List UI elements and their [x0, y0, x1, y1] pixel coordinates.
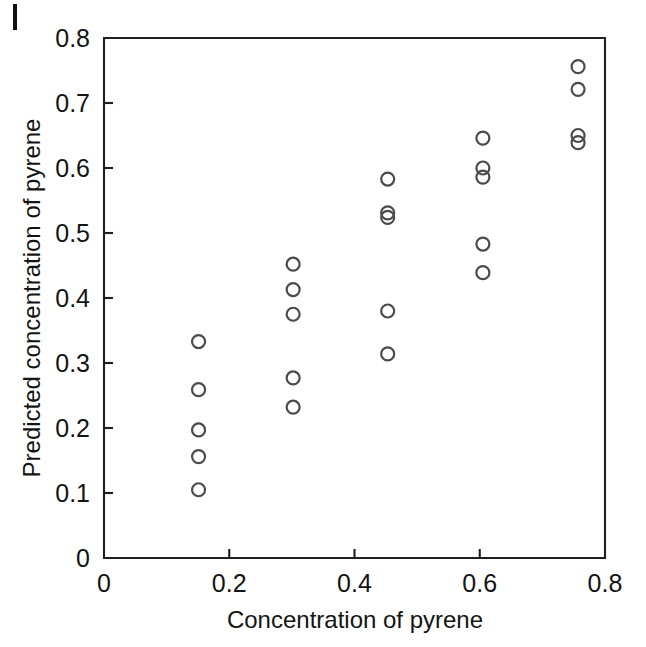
data-point	[381, 305, 394, 318]
data-point	[476, 238, 489, 251]
x-tick-label: 0.2	[212, 569, 247, 597]
y-tick-label: 0.8	[55, 24, 90, 52]
data-point	[381, 173, 394, 186]
y-tick-label: 0.2	[55, 414, 90, 442]
y-tick-label: 0.7	[55, 89, 90, 117]
y-axis-title: Predicted concentration of pyrene	[18, 119, 45, 478]
scatter-plot: 00.10.20.30.40.50.60.70.8 00.20.40.60.8 …	[0, 0, 646, 647]
data-point	[192, 450, 205, 463]
data-point	[287, 308, 300, 321]
data-point	[192, 335, 205, 348]
x-axis-tick-labels: 00.20.40.60.8	[97, 569, 622, 597]
data-point	[192, 423, 205, 436]
data-point	[572, 60, 585, 73]
data-point-markers	[192, 60, 585, 496]
y-axis-ticks	[104, 103, 113, 493]
y-tick-label: 0.4	[55, 284, 90, 312]
data-point	[287, 401, 300, 414]
y-tick-label: 0.3	[55, 349, 90, 377]
data-point	[381, 347, 394, 360]
y-tick-label: 0	[76, 544, 90, 572]
y-tick-label: 0.1	[55, 479, 90, 507]
y-axis-tick-labels: 00.10.20.30.40.50.60.70.8	[55, 24, 90, 572]
x-axis-title: Concentration of pyrene	[227, 606, 483, 633]
data-point	[192, 483, 205, 496]
x-tick-label: 0.4	[337, 569, 372, 597]
data-point	[192, 383, 205, 396]
x-tick-label: 0	[97, 569, 111, 597]
data-point	[572, 83, 585, 96]
y-tick-label: 0.6	[55, 154, 90, 182]
data-point	[287, 283, 300, 296]
plot-frame	[104, 38, 605, 558]
data-point	[287, 258, 300, 271]
data-point	[287, 371, 300, 384]
x-tick-label: 0.8	[588, 569, 623, 597]
data-point	[476, 171, 489, 184]
x-axis-ticks	[229, 549, 480, 558]
data-point	[476, 266, 489, 279]
figure-panel: 00.10.20.30.40.50.60.70.8 00.20.40.60.8 …	[0, 0, 646, 647]
x-tick-label: 0.6	[462, 569, 497, 597]
y-tick-label: 0.5	[55, 219, 90, 247]
data-point	[476, 132, 489, 145]
